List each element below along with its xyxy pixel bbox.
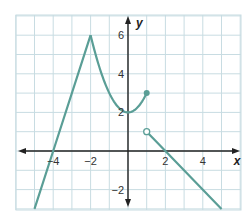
x-tick-label: −4 [47,155,60,167]
x-axis-left-arrow-icon [18,148,26,154]
x-axis-label: x [233,154,242,168]
function-graph: −4−224−2246xy [0,0,252,217]
linear-increasing-piece [35,35,91,209]
y-tick-label: 4 [118,68,124,80]
closed-endpoint-dot [144,90,150,96]
x-tick-label: 4 [200,155,206,167]
x-tick-label: 2 [162,155,168,167]
open-endpoint-dot [144,129,150,135]
y-tick-label: 6 [118,29,124,41]
y-axis-label: y [135,16,144,30]
y-axis-up-arrow-icon [125,16,131,24]
y-axis-down-arrow-icon [125,199,131,207]
tick-labels: −4−224−2246xy [47,16,242,196]
x-tick-label: −2 [84,155,97,167]
y-tick-label: 2 [118,106,124,118]
y-tick-label: −2 [111,184,124,196]
